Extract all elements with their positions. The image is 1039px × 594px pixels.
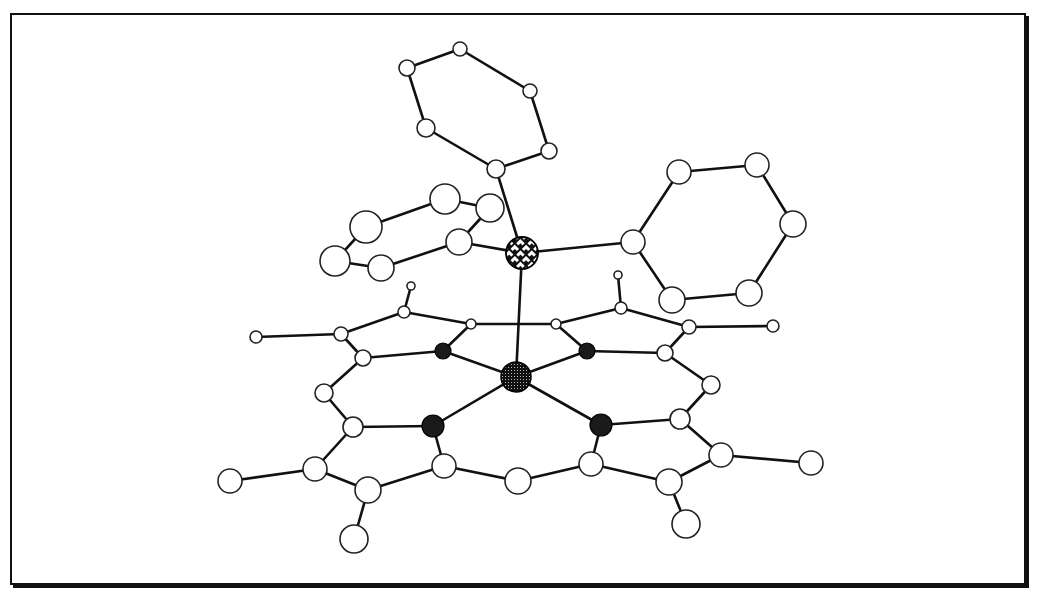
metal-atom <box>501 362 531 392</box>
phosphorus-atom <box>506 237 538 269</box>
molecule-diagram <box>0 0 1039 594</box>
